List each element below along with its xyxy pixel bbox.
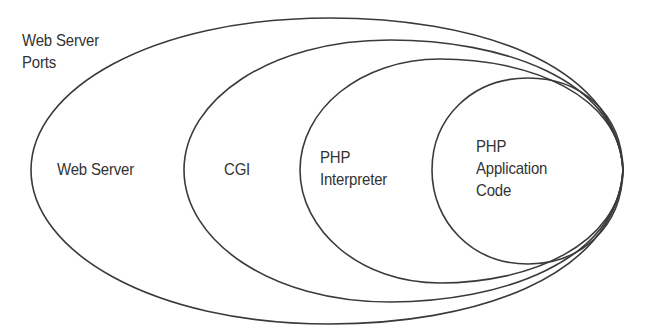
caption-line: Web Server (22, 30, 99, 52)
label-line: PHP (320, 147, 387, 169)
label-php-application-code: PHP Application Code (476, 136, 547, 202)
label-web-server: Web Server (57, 159, 134, 181)
caption-line: Ports (22, 52, 99, 74)
label-cgi: CGI (224, 159, 250, 181)
label-line: PHP (476, 136, 547, 158)
label-line: Web Server (57, 159, 134, 181)
label-php-interpreter: PHP Interpreter (320, 147, 387, 191)
label-line: Application (476, 158, 547, 180)
label-line: CGI (224, 159, 250, 181)
label-line: Code (476, 180, 547, 202)
label-line: Interpreter (320, 169, 387, 191)
caption-web-server-ports: Web Server Ports (22, 30, 99, 74)
